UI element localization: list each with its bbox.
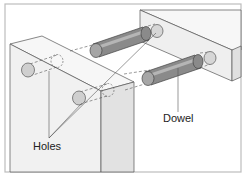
hole-left-top: [22, 63, 35, 77]
hole-left-bottom: [73, 91, 86, 105]
holes-label: Holes: [33, 140, 62, 152]
dowel-label: Dowel: [163, 112, 194, 124]
hole-right-top: [151, 25, 163, 38]
hole-right-bottom: [204, 52, 216, 65]
dowel-joint-diagram: Holes Dowel: [0, 0, 243, 175]
